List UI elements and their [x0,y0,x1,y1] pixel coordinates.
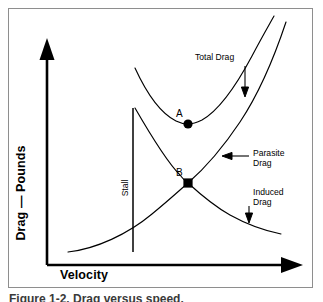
figure-root: Drag — Pounds Velocity Total Drag Parasi… [0,0,323,302]
arrow-up-icon [40,38,55,60]
leader-line-group [222,66,253,223]
x-axis-title: Velocity [60,268,108,282]
total-drag-curve [135,16,274,124]
y-axis-title: Drag — Pounds [14,138,28,248]
stall-label: Stall [120,166,130,210]
parasite-drag-label: Parasite Drag [253,149,285,168]
curve-group [68,16,286,252]
parasite-drag-arrowhead [222,152,232,159]
point-b-label: B [176,167,183,178]
induced-drag-curve [135,108,281,234]
total-drag-arrowhead [241,87,248,97]
induced-drag-label: Induced Drag [253,188,284,207]
figure-caption: Figure 1-2. Drag versus speed. [9,292,184,302]
total-drag-label: Total Drag [195,53,234,63]
point-b-marker [183,178,192,187]
point-a-marker [183,119,192,128]
arrow-right-icon [281,257,303,273]
parasite-drag-curve [68,22,286,252]
induced-drag-arrowhead [245,213,252,223]
point-a-label: A [176,108,183,119]
